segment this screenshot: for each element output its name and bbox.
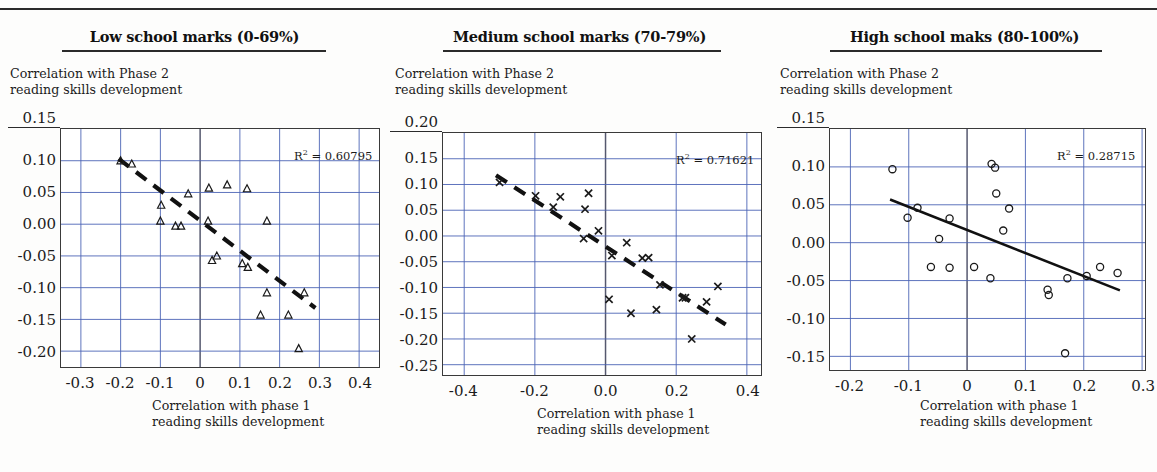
y-axis-tick-label: -0.15 [787,348,825,366]
y-axis-tick-label: 0.00 [23,215,56,233]
data-point-circle [936,235,943,242]
data-point-triangle [301,289,308,296]
data-point-cross [585,190,592,197]
x-axis-label: Correlation with phase 1 reading skills … [537,406,709,437]
data-point-cross [595,227,602,234]
x-axis-tick-label: 0.2 [268,374,292,392]
x-axis-tick-label: 0.4 [348,374,372,392]
x-axis-label: Correlation with phase 1 reading skills … [152,398,324,429]
chart-panel-medium-marks: Medium school marks (70-79%) Correlation… [387,22,772,462]
data-point-circle [1062,350,1069,357]
data-point-triangle [263,289,270,296]
grid-lines [443,133,761,375]
y-axis-tick-label: -0.25 [400,357,438,375]
y-axis-label: Correlation with Phase 2 reading skills … [395,66,567,97]
data-point-circle [927,263,934,270]
chart-panel-high-marks: High school maks (80-100%) Correlation w… [772,22,1157,462]
y-axis-tick-label: -0.05 [787,272,825,290]
r2-value: 0.71621 [707,153,755,167]
x-axis-tick-label: 0 [962,377,972,395]
data-point-circle [904,214,911,221]
y-axis-tick-label: 0.05 [405,201,438,219]
trend-line [119,159,316,308]
data-point-triangle [243,185,250,192]
y-axis-tick-label: 0.15 [405,149,438,167]
trend-line [890,199,1120,290]
scatter-svg [61,129,379,367]
plot-area [60,128,380,368]
y-axis-tick-label: 0.10 [23,151,56,169]
x-axis-tick-label: 0 [195,374,205,392]
scatter-svg [830,129,1145,370]
y-axis-top-rule [8,127,60,128]
data-point-cross [532,192,539,199]
data-point-cross [550,204,557,211]
data-point-circle [1006,205,1013,212]
r-squared-annotation: R2 = 0.28715 [1057,148,1135,163]
data-point-triangle [177,222,184,229]
y-axis-tick-label: -0.05 [400,253,438,271]
chart-title: Low school marks (0-69%) [2,28,387,45]
data-point-triangle [295,345,302,352]
y-axis-label: Correlation with Phase 2 reading skills … [780,66,952,97]
y-axis-label: Correlation with Phase 2 reading skills … [10,66,182,97]
plot-area [829,128,1146,371]
data-point-circle [1097,263,1104,270]
data-point-triangle [205,184,212,191]
r2-value: 0.60795 [325,149,373,163]
title-underline [830,50,1102,52]
x-axis-tick-label: -0.1 [146,374,175,392]
y-axis-tick-label: 0.00 [792,234,825,252]
y-axis-tick-label: -0.20 [400,331,438,349]
r-squared-annotation: R2 = 0.71621 [676,152,754,167]
x-axis-tick-label: 0.1 [228,374,252,392]
y-axis-tick-label: -0.20 [18,343,56,361]
y-axis-tick-label: -0.05 [18,247,56,265]
x-axis-tick-label: -0.4 [449,382,478,400]
y-axis-tick-label: 0.10 [405,175,438,193]
data-point-cross [605,296,612,303]
trend-line-segment [119,159,316,308]
y-axis-tick-label: 0.05 [792,195,825,213]
scatter-svg [443,133,761,375]
data-point-triangle [185,190,192,197]
r2-prefix: R [676,153,685,167]
y-axis-tick-label: 0.10 [792,157,825,175]
data-point-cross [581,206,588,213]
data-points [496,179,722,343]
x-axis-label: Correlation with phase 1 reading skills … [920,398,1092,429]
y-axis-tick-label: -0.10 [787,310,825,328]
x-axis-tick-label: 0.0 [594,382,618,400]
data-point-circle [993,190,1000,197]
data-point-triangle [223,181,230,188]
r2-value: 0.28715 [1088,149,1136,163]
data-point-cross [653,306,660,313]
y-axis-tick-label: 0.15 [23,109,56,127]
data-points [889,160,1121,357]
data-point-triangle [263,217,270,224]
data-point-circle [1000,227,1007,234]
title-underline [62,50,326,52]
y-axis-tick-label: -0.10 [18,279,56,297]
data-point-triangle [204,217,211,224]
y-axis-tick-label: 0.20 [405,113,438,131]
grid-lines [61,129,379,367]
data-point-cross [645,254,652,261]
data-point-circle [1114,269,1121,276]
x-axis-tick-label: -0.2 [106,374,135,392]
y-axis-top-rule [390,131,442,132]
chart-title: Medium school marks (70-79%) [387,28,772,45]
chart-title: High school maks (80-100%) [772,28,1157,45]
data-point-cross [714,283,721,290]
y-axis-tick-label: -0.10 [400,279,438,297]
data-point-triangle [158,201,165,208]
x-axis-tick-label: -0.1 [894,377,923,395]
data-point-cross [703,298,710,305]
r2-equals: = [690,153,707,167]
x-axis-tick-label: 0.2 [1072,377,1096,395]
title-underline [443,50,721,52]
y-axis-tick-label: 0.05 [23,183,56,201]
x-axis-tick-label: 0.3 [308,374,332,392]
chart-panel-low-marks: Low school marks (0-69%) Correlation wit… [2,22,387,462]
data-point-circle [946,215,953,222]
